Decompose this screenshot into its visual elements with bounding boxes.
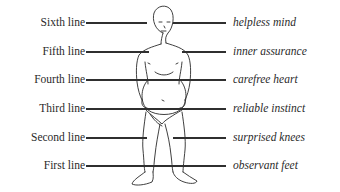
line-meaning: helpless mind [233, 15, 296, 29]
line-label: Sixth line [41, 15, 85, 29]
line-bar-right [173, 137, 226, 139]
line-meaning: surprised knees [233, 130, 305, 144]
line-label: Second line [31, 130, 85, 144]
line-label: Fourth line [34, 72, 85, 86]
line-meaning: inner assurance [233, 44, 307, 58]
line-bar-left [86, 22, 147, 24]
line-bar-left [86, 51, 149, 53]
line-bar-full [86, 108, 226, 110]
line-bar-full [86, 79, 226, 81]
line-bar-right [182, 51, 226, 53]
line-meaning: reliable instinct [233, 101, 305, 115]
line-label: Fifth line [43, 44, 86, 58]
line-label: Third line [39, 101, 85, 115]
line-bar-right [173, 22, 226, 24]
line-bar-full [86, 165, 226, 167]
line-bar-left [86, 137, 147, 139]
line-label: First line [44, 158, 85, 172]
line-meaning: observant feet [233, 158, 298, 172]
line-meaning: carefree heart [233, 72, 298, 86]
